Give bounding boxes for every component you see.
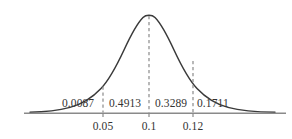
x-tick-label-0.05: 0.05 [93, 120, 114, 132]
plot-canvas [0, 0, 292, 139]
area-label-right-tail: 0.1711 [197, 97, 229, 109]
x-tick-label-0.12: 0.12 [183, 120, 204, 132]
normal-distribution-figure: 0.0087 0.4913 0.3289 0.1711 0.05 0.1 0.1… [0, 0, 292, 139]
area-label-0.1-to-0.12: 0.3289 [155, 97, 187, 109]
area-label-0.05-to-0.1: 0.4913 [109, 97, 141, 109]
x-tick-label-0.1: 0.1 [142, 120, 157, 132]
area-label-left-tail: 0.0087 [62, 97, 94, 109]
